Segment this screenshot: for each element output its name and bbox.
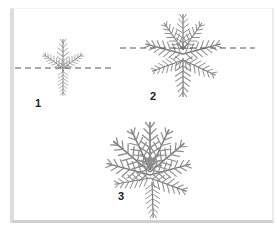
branch-1 (41, 39, 86, 96)
panel-label-2: 2 (150, 90, 156, 102)
panel-label-1: 1 (35, 97, 41, 109)
panel-label-3: 3 (118, 190, 124, 202)
branch-illustration: 1 2 3 (0, 0, 277, 229)
branch-2 (143, 14, 222, 97)
branch-3 (104, 122, 193, 218)
